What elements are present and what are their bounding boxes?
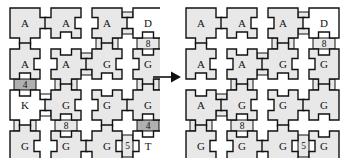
tile: G [221,84,257,120]
tile: G [262,125,298,158]
figure-stage: 555568468684AAADAAGGKGGGGGGT 5555686868A… [0,0,342,158]
tile: G [92,90,128,126]
h-connector: 5 [122,135,133,157]
v-connector: 8 [313,38,335,49]
tile: A [186,90,222,126]
tile: A [45,8,81,38]
tile: G [86,43,122,79]
tile: A [186,43,216,79]
tile: K [10,90,46,126]
tile: G [45,84,81,120]
tile: A [227,49,263,85]
tile: G [51,131,87,158]
v-connector: 8 [55,120,77,131]
tile: T [133,131,160,158]
h-connector: 5 [298,135,309,157]
tile: G [86,125,122,158]
tile: G [227,131,263,158]
v-connector: 4 [137,120,159,131]
tile: G [262,43,298,79]
tile: D [303,8,339,38]
tile: A [221,8,257,38]
tile: A [92,8,128,44]
tile: A [10,8,46,44]
tile-grid-right: 5555686868AAADAAGGAGGGGGGG [174,0,342,158]
tile: G [268,90,304,126]
tile: A [10,43,40,79]
tile: A [268,8,304,44]
tile: G [303,84,339,120]
v-connector: 8 [137,38,159,49]
tile-grid-left: 555568468684AAADAAGGKGGGGGGT [0,0,160,158]
tile: A [186,8,222,44]
tile: G [309,131,339,158]
tile: A [51,49,87,85]
tile: G [309,49,339,85]
v-connector: 8 [231,120,253,131]
v-connector: 4 [14,79,36,90]
